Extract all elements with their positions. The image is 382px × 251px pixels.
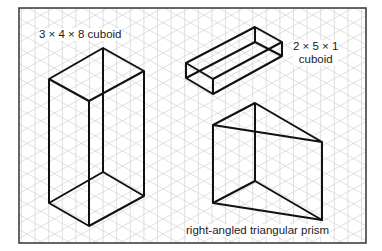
label-cuboid-small: 2 × 5 × 1 cuboid (293, 40, 338, 66)
label-cuboid-small-line1: 2 × 5 × 1 (293, 40, 338, 53)
cuboid-small (186, 27, 282, 94)
label-cuboid-small-line2: cuboid (293, 53, 338, 66)
triangular-prism (213, 103, 322, 220)
label-prism: right-angled triangular prism (186, 224, 329, 237)
label-cuboid-large: 3 × 4 × 8 cuboid (39, 28, 121, 41)
